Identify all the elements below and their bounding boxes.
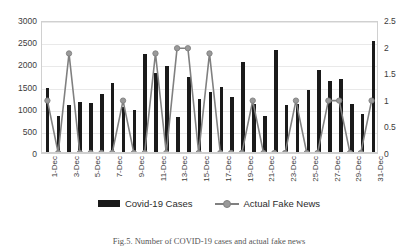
x-axis-tick: 11-Dec <box>159 156 168 181</box>
figure-caption: Fig.5. Number of COVID-19 cases and actu… <box>0 236 418 249</box>
plot-area <box>41 21 378 154</box>
line-marker-swatch-icon <box>215 200 239 208</box>
legend-label-covid-19-cases: Covid-19 Cases <box>125 198 193 209</box>
y-axis-left-tick: 1000 <box>18 105 37 115</box>
line-series-svg <box>42 22 377 153</box>
line-marker <box>185 46 190 51</box>
y-axis-right-tick: 1 <box>384 96 389 106</box>
x-axis-tick: 7-Dec <box>115 156 124 177</box>
line-series-actual-fake-news <box>42 22 377 153</box>
line-marker <box>326 98 331 103</box>
line-marker <box>369 98 374 103</box>
y-axis-right-tick: 1.5 <box>384 69 396 79</box>
x-axis-tick: 3-Dec <box>72 156 81 177</box>
line-marker <box>250 98 255 103</box>
line-marker <box>120 98 125 103</box>
bar-swatch-icon <box>98 200 120 207</box>
x-axis-tick: 9-Dec <box>137 156 146 177</box>
x-axis-tick: 19-Dec <box>246 156 255 182</box>
x-axis-tick: 23-Dec <box>289 156 298 182</box>
legend-item-actual-fake-news[interactable]: Actual Fake News <box>215 198 321 209</box>
legend-label-actual-fake-news: Actual Fake News <box>244 198 321 209</box>
x-axis-tick: 25-Dec <box>311 156 320 182</box>
y-axis-left-tick: 1500 <box>18 83 37 93</box>
line-path <box>47 48 371 153</box>
y-axis-left-tick: 3000 <box>18 16 37 26</box>
x-axis-tick: 29-Dec <box>354 156 363 182</box>
line-marker <box>66 51 71 56</box>
y-axis-right-tick: 2.5 <box>384 16 396 26</box>
y-axis-right-tick: 2 <box>384 43 389 53</box>
line-marker <box>293 98 298 103</box>
x-axis-tick: 31-Dec <box>376 156 385 182</box>
line-marker <box>174 46 179 51</box>
y-axis-left-tick: 2500 <box>18 38 37 48</box>
y-axis-right: 00.511.522.5 <box>378 0 418 155</box>
line-marker <box>336 98 341 103</box>
line-marker <box>45 98 50 103</box>
x-axis-tick: 27-Dec <box>333 156 342 182</box>
line-marker <box>207 51 212 56</box>
y-axis-left-tick: 500 <box>23 127 37 137</box>
x-axis-tick: 5-Dec <box>93 156 102 177</box>
x-axis-tick: 21-Dec <box>267 156 276 182</box>
y-axis-left-tick: 0 <box>32 149 37 159</box>
figure-container: 050010001500200025003000 00.511.522.5 1-… <box>0 0 418 249</box>
line-marker <box>153 51 158 56</box>
x-axis-tick: 17-Dec <box>224 156 233 182</box>
axis-baseline <box>42 152 377 153</box>
legend-item-covid-19-cases[interactable]: Covid-19 Cases <box>98 198 193 209</box>
chart-legend: Covid-19 Cases Actual Fake News <box>0 198 418 209</box>
x-axis: 1-Dec3-Dec5-Dec7-Dec9-Dec11-Dec13-Dec15-… <box>41 156 378 194</box>
y-axis-left: 050010001500200025003000 <box>0 0 41 155</box>
x-axis-tick: 15-Dec <box>202 156 211 182</box>
y-axis-left-tick: 2000 <box>18 60 37 70</box>
x-axis-tick: 13-Dec <box>180 156 189 182</box>
y-axis-right-tick: 0.5 <box>384 122 396 132</box>
x-axis-tick: 1-Dec <box>50 156 59 177</box>
